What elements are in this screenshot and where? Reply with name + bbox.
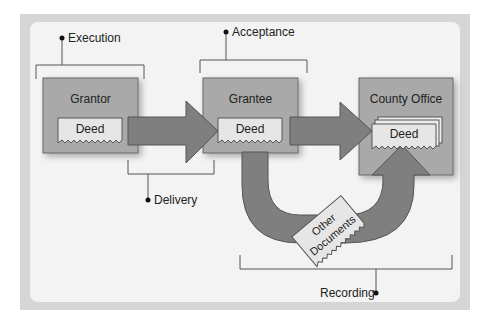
grantee-deed-label: Deed [218,122,282,136]
grantee-label: Grantee [203,92,298,106]
execution-label: Execution [68,31,121,45]
acceptance-bracket [200,60,307,73]
delivery-label: Delivery [154,193,197,207]
delivery-bracket [128,160,214,174]
execution-bracket [36,65,144,79]
recording-label: Recording [320,286,375,300]
grantor-deed-label: Deed [58,122,122,136]
recording-bracket [240,255,452,269]
acceptance-label: Acceptance [232,25,295,39]
county-deed-label: Deed [372,127,436,141]
diagram-graphics: Other Documents [0,0,500,326]
county-office-label: County Office [359,92,453,106]
grantor-label: Grantor [43,92,138,106]
